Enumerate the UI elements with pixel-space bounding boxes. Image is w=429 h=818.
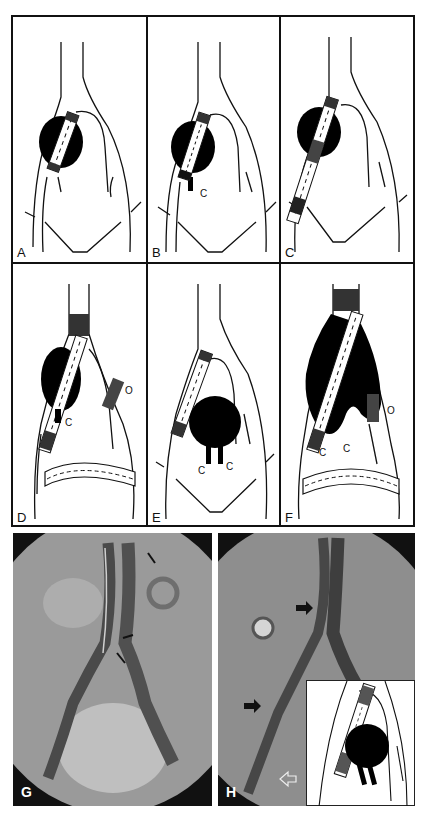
angiogram-g-image: [13, 533, 212, 806]
angiogram-g: G: [13, 533, 212, 806]
panel-label: H: [226, 784, 236, 800]
panel-d-drawing: C O: [13, 264, 146, 527]
panel-f-drawing: O C C: [281, 264, 415, 527]
svg-text:C: C: [343, 443, 350, 454]
panel-label: A: [17, 245, 26, 260]
svg-text:C: C: [65, 417, 72, 428]
schematic-grid: A C B: [11, 15, 415, 527]
panel-label: E: [152, 510, 161, 525]
panel-label: G: [21, 784, 32, 800]
panel-label: B: [152, 245, 161, 260]
svg-text:O: O: [125, 385, 133, 396]
panel-d: C O D: [13, 264, 146, 527]
panel-c: C: [281, 17, 415, 262]
panel-label: F: [285, 510, 293, 525]
svg-text:C: C: [319, 447, 326, 458]
inset-drawing: [307, 681, 415, 806]
panel-b: C B: [148, 17, 279, 262]
panel-f: O C C F: [281, 264, 415, 527]
svg-text:C: C: [198, 465, 205, 476]
panel-label: D: [17, 510, 26, 525]
panel-label: C: [285, 245, 294, 260]
panel-a-drawing: [13, 17, 146, 262]
svg-text:C: C: [226, 461, 233, 472]
annotation-c: C: [200, 188, 207, 199]
panel-a: A: [13, 17, 146, 262]
panel-e: C C E: [148, 264, 279, 527]
panel-c-drawing: [281, 17, 415, 262]
angiogram-h: H: [218, 533, 415, 806]
panel-b-drawing: C: [148, 17, 279, 262]
panel-e-drawing: C C: [148, 264, 279, 527]
schematic-inset: [306, 680, 415, 806]
svg-text:O: O: [387, 405, 395, 416]
